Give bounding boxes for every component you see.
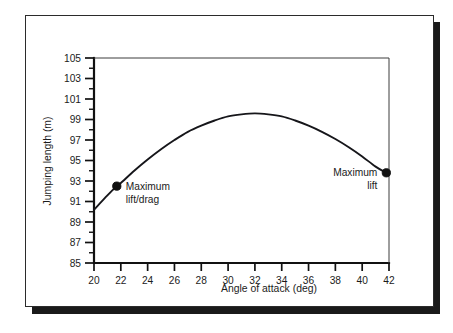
x-tick-label: 20: [88, 275, 100, 286]
y-tick-label: 91: [70, 196, 82, 207]
y-axis-tick-labels: 8587899193959799101103105: [64, 53, 81, 269]
x-tick-label: 22: [115, 275, 127, 286]
jumping-length-vs-angle-chart: 202224262830323436384042 858789919395979…: [26, 16, 435, 308]
annotation-label-line1: Maximum: [126, 181, 170, 192]
x-tick-label: 26: [169, 275, 181, 286]
y-tick-label: 103: [64, 73, 81, 84]
figure-frame: 202224262830323436384042 858789919395979…: [25, 15, 434, 307]
annotation-label-line2: lift/drag: [126, 194, 160, 205]
plot-frame: [94, 58, 389, 263]
annotation-labels: Maximumlift/dragMaximumlift: [126, 167, 378, 204]
y-tick-label: 105: [64, 53, 81, 64]
x-axis-title: Angle of attack (deg): [221, 283, 317, 294]
x-axis-ticks: [94, 263, 389, 271]
y-tick-label: 99: [70, 114, 82, 125]
annotation-marker: [382, 169, 390, 177]
y-tick-label: 97: [70, 135, 82, 146]
x-tick-label: 24: [142, 275, 154, 286]
x-tick-label: 38: [330, 275, 342, 286]
y-tick-label: 93: [70, 176, 82, 187]
figure-root: 202224262830323436384042 858789919395979…: [0, 0, 453, 333]
y-tick-label: 87: [70, 237, 82, 248]
y-tick-label: 85: [70, 258, 82, 269]
x-tick-label: 40: [357, 275, 369, 286]
y-axis-ticks: [85, 58, 94, 263]
y-axis-title: Jumping length (m): [42, 117, 53, 206]
annotation-label-line1: Maximum: [333, 167, 377, 178]
y-tick-label: 101: [64, 94, 81, 105]
annotation-marker: [113, 182, 121, 190]
x-tick-label: 42: [383, 275, 395, 286]
annotation-label-line2: lift: [367, 180, 377, 191]
y-tick-label: 89: [70, 217, 82, 228]
y-tick-label: 95: [70, 155, 82, 166]
x-tick-label: 28: [196, 275, 208, 286]
